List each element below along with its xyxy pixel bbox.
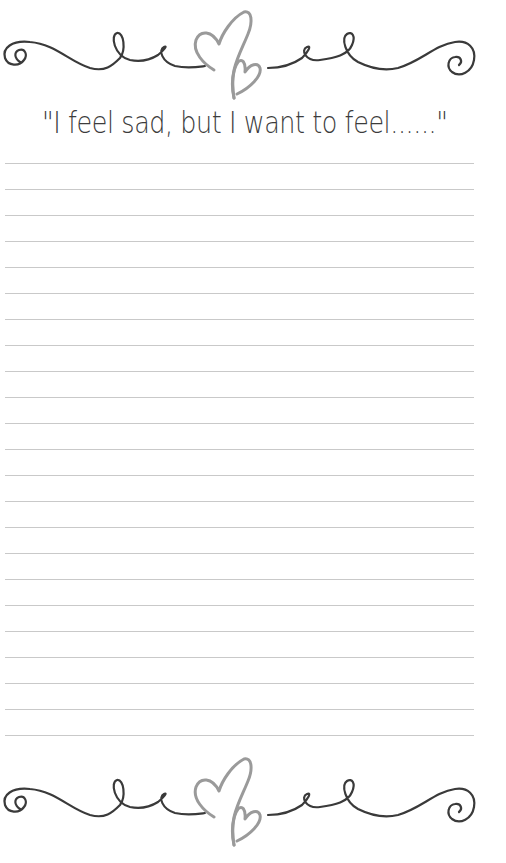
writing-line [5,449,474,450]
swirl-heart-divider-icon [0,747,506,857]
writing-line [5,423,474,424]
writing-line [5,709,474,710]
writing-line [5,215,474,216]
writing-line [5,475,474,476]
writing-line [5,189,474,190]
writing-line [5,579,474,580]
writing-line [5,735,474,736]
writing-line [5,553,474,554]
writing-line [5,163,474,164]
writing-line [5,345,474,346]
writing-line [5,683,474,684]
writing-line [5,631,474,632]
writing-line [5,241,474,242]
writing-line [5,501,474,502]
writing-line [5,267,474,268]
writing-line [5,293,474,294]
writing-line [5,657,474,658]
writing-line [5,319,474,320]
writing-line [5,397,474,398]
bottom-ornament [0,747,506,857]
ruled-lines [5,0,474,863]
writing-line [5,371,474,372]
writing-line [5,527,474,528]
writing-line [5,605,474,606]
